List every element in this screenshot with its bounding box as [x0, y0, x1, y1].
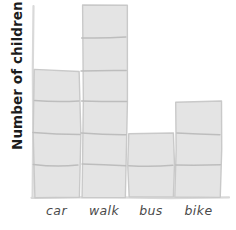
- x-tick-label-bus: bus: [139, 203, 163, 218]
- bar-body: [175, 101, 222, 197]
- x-tick-labels: carwalkbusbike: [46, 203, 212, 218]
- bar-chart-figure: carwalkbusbike Number of children: [0, 0, 236, 230]
- chart-canvas: carwalkbusbike Number of children: [0, 0, 236, 230]
- bar-segment-divider: [82, 101, 127, 102]
- x-tick-label-car: car: [46, 203, 67, 218]
- bar-walk: [81, 5, 127, 198]
- bar-car: [33, 69, 81, 197]
- y-axis-title: Number of children: [9, 1, 25, 150]
- bar-bike: [175, 101, 222, 197]
- x-tick-label-walk: walk: [89, 203, 120, 218]
- x-tick-label-bike: bike: [185, 203, 213, 218]
- bar-bus: [128, 133, 175, 197]
- bar-body: [128, 133, 175, 197]
- bars-layer: [33, 5, 222, 198]
